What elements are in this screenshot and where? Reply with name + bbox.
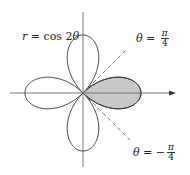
eq-text: = cos 2 — [27, 30, 72, 43]
equals: = — [140, 146, 156, 159]
label-theta-pi-over-4: θ = π4 — [136, 29, 169, 48]
label-theta-minus-pi-over-4: θ = −π4 — [133, 143, 175, 162]
var-theta: θ — [72, 30, 79, 43]
equals: = — [143, 32, 159, 45]
x-axis-arrow-icon — [169, 91, 176, 96]
equation-label: r = cos 2θ — [22, 30, 79, 43]
denominator: 4 — [161, 39, 169, 48]
fraction: π4 — [161, 29, 169, 48]
fraction: π4 — [167, 143, 175, 162]
minus-sign: − — [156, 146, 165, 159]
theta-symbol: θ — [133, 146, 140, 159]
denominator: 4 — [167, 153, 175, 162]
theta-symbol: θ — [136, 32, 143, 45]
